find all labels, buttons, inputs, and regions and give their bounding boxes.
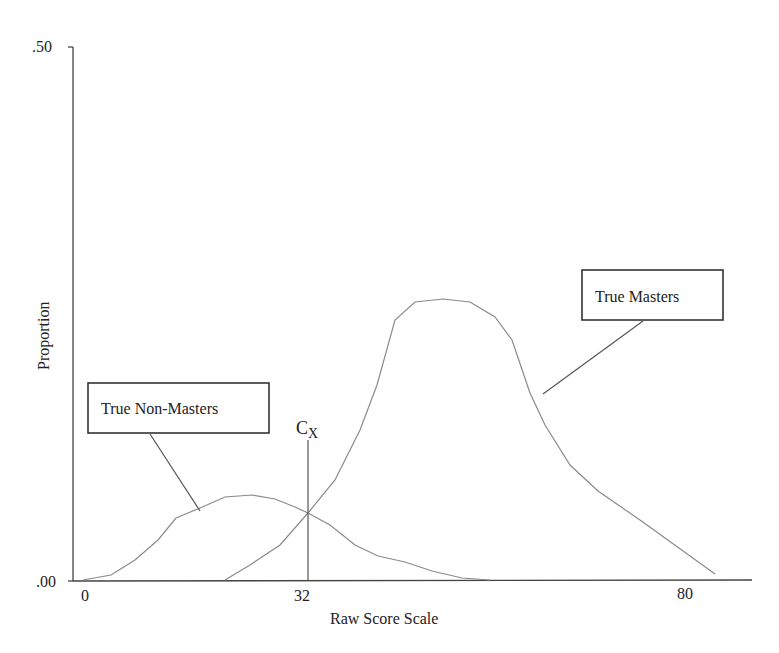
callout-true-masters: True Masters [543,270,723,394]
cut-score-subscript: X [308,426,318,441]
chart-canvas: .50 .00 0 32 80 Raw Score Scale Proporti… [0,0,779,653]
callout-pointer-non-masters [150,434,200,511]
curve-true-masters [225,299,715,580]
x-axis-title: Raw Score Scale [330,610,438,627]
callout-label-masters: True Masters [595,288,679,305]
cut-score-main: C [296,418,308,438]
y-axis-title: Proportion [35,302,53,370]
callout-true-non-masters: True Non-Masters [88,383,269,511]
x-axis [73,580,752,581]
y-tick-label-bottom: .00 [36,573,56,590]
x-tick-label-32: 32 [294,587,310,604]
callout-label-non-masters: True Non-Masters [101,400,218,417]
x-tick-label-80: 80 [677,585,693,602]
callout-pointer-masters [543,321,643,394]
y-tick-label-top: .50 [32,38,52,55]
cut-score-label: CX [296,418,318,441]
x-tick-label-0: 0 [81,587,89,604]
